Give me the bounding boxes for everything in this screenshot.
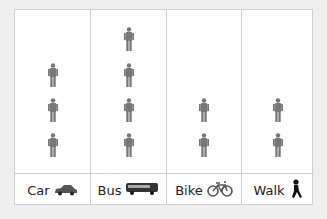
category-label-cell: Bike (167, 173, 241, 207)
person-icon (124, 98, 134, 122)
person-icon (273, 133, 283, 157)
person-icon (124, 133, 134, 157)
category-label: Car (27, 183, 49, 198)
bike-icon (207, 181, 233, 201)
person-icon (124, 27, 134, 51)
category-label: Walk (253, 183, 284, 198)
column-bus: Bus (91, 10, 167, 204)
person-icon (124, 63, 134, 87)
plot-area (15, 10, 90, 173)
column-walk: Walk (242, 10, 314, 204)
person-icon (48, 63, 58, 87)
category-label-cell: Walk (242, 173, 314, 207)
column-car: Car (15, 10, 91, 204)
car-icon (54, 181, 78, 200)
plot-area (242, 10, 314, 173)
pictogram-chart: CarBusBikeWalk (14, 9, 313, 205)
person-icon (199, 133, 209, 157)
category-label: Bike (175, 183, 203, 198)
bus-icon (125, 181, 159, 200)
person-icon (199, 98, 209, 122)
person-icon (273, 98, 283, 122)
person-icon (48, 98, 58, 122)
plot-area (91, 10, 166, 173)
person-icon (48, 133, 58, 157)
category-label: Bus (98, 183, 122, 198)
category-label-cell: Car (15, 173, 90, 207)
walk-icon (289, 179, 303, 203)
category-label-cell: Bus (91, 173, 166, 207)
column-bike: Bike (167, 10, 242, 204)
plot-area (167, 10, 241, 173)
